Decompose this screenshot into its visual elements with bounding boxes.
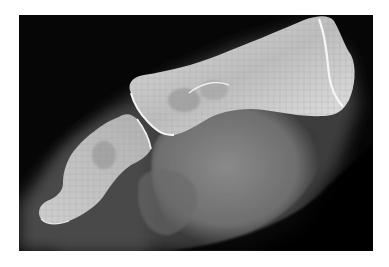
xray-image xyxy=(19,15,373,251)
xray-film xyxy=(19,15,373,251)
